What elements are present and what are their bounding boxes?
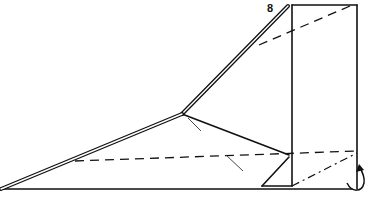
fold-arrow-icon — [347, 164, 364, 190]
step-number: 8 — [267, 2, 273, 14]
double-edge-inner — [182, 6, 288, 114]
edge-line — [182, 114, 289, 155]
solid-edges — [0, 5, 357, 189]
edge-line — [262, 157, 289, 186]
mountain-fold-line — [292, 153, 357, 186]
double-edge-inner — [1, 114, 182, 189]
double-edges — [1, 6, 288, 189]
valley-fold-lines — [75, 6, 357, 161]
mountain-fold-lines — [292, 153, 357, 186]
fold-diagram — [0, 0, 381, 212]
crease-hint-strokes — [188, 118, 243, 171]
crease-hint — [226, 155, 243, 171]
valley-fold-line — [75, 151, 357, 161]
